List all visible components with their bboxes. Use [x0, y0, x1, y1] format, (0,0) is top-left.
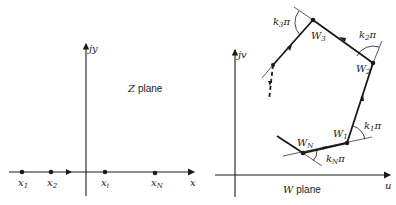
w-plane: u jv Wplane: [215, 7, 391, 197]
label-xi: xi: [101, 177, 109, 190]
label-k1pi: k1π: [364, 120, 382, 133]
edge-arrow-icon: [268, 81, 272, 86]
vertex-WN: [301, 151, 306, 156]
z-plane-title: Zplane: [127, 83, 163, 94]
schwarz-christoffel-diagram: x1 x2 xi xN x jy Zplane u jv Wplane: [0, 0, 396, 205]
point-xi: [103, 170, 108, 175]
label-xN: xN: [151, 177, 164, 190]
vertex-W1: [345, 141, 350, 146]
label-kNpi: kNπ: [326, 153, 345, 166]
label-W3: W3: [311, 30, 326, 43]
vertex-W2: [371, 61, 376, 66]
point-x2: [49, 170, 54, 175]
label-k2pi: k2π: [359, 29, 377, 42]
z-y-axis-label: jy: [87, 43, 98, 54]
w-u-axis-label: u: [385, 180, 391, 191]
point-xN: [153, 171, 158, 176]
z-x-axis-label: x: [190, 177, 196, 188]
label-k3pi: k3π: [273, 16, 291, 29]
w-v-axis-label: jv: [236, 49, 247, 60]
label-W1: W1: [333, 128, 348, 141]
w-plane-title: Wplane: [283, 184, 321, 195]
label-W2: W2: [356, 63, 371, 76]
vertex-W3: [311, 18, 316, 23]
z-plane: x1 x2 xi xN x jy Zplane: [9, 43, 196, 196]
label-x1: x1: [18, 177, 28, 190]
direction-arrow-icon: [66, 169, 72, 175]
label-WN: WN: [297, 137, 314, 150]
point-x1: [20, 170, 25, 175]
label-x2: x2: [47, 177, 58, 190]
vertex-unlabeled: [271, 63, 275, 67]
